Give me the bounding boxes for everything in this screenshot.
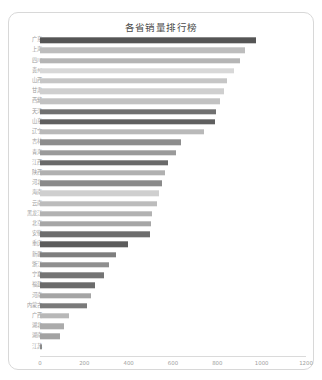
bar-chart-plot: 广东上海四川贵州山西甘肃西藏天津山东辽宁吉林青海江西陕西河北海南云南黑龙江北京安… (9, 13, 313, 369)
bar-row: 贵州 (9, 66, 313, 76)
bar-track (40, 140, 304, 145)
bar (40, 170, 165, 175)
bar (40, 344, 42, 349)
bar-row: 福建 (9, 280, 313, 290)
x-axis-tick-label: 1200 (299, 360, 313, 366)
bar-row: 重庆 (9, 239, 313, 249)
x-axis-tick-label: 0 (38, 360, 41, 366)
bar (40, 221, 151, 226)
bar-rows: 广东上海四川贵州山西甘肃西藏天津山东辽宁吉林青海江西陕西河北海南云南黑龙江北京安… (9, 35, 313, 352)
bar-track (40, 201, 304, 206)
bar-row: 新疆 (9, 250, 313, 260)
bar-row: 广东 (9, 35, 313, 45)
bar (40, 180, 162, 185)
bar (40, 283, 95, 288)
bar-track (40, 191, 304, 196)
bar-track (40, 119, 304, 124)
bar-row: 湖南 (9, 331, 313, 341)
bar-track (40, 150, 304, 155)
bar (40, 211, 152, 216)
bar (40, 68, 234, 73)
bar-track (40, 211, 304, 216)
bar-row: 天津 (9, 107, 313, 117)
bar (40, 78, 227, 83)
bar-track (40, 89, 304, 94)
bar-row: 海南 (9, 188, 313, 198)
bar-row: 青海 (9, 147, 313, 157)
bar-track (40, 232, 304, 237)
bar-row: 广西 (9, 311, 313, 321)
bar-row: 四川 (9, 55, 313, 65)
x-axis-tick-label: 800 (212, 360, 222, 366)
bar-track (40, 160, 304, 165)
bar (40, 140, 181, 145)
bar (40, 109, 216, 114)
bar-track (40, 48, 304, 53)
bar (40, 191, 159, 196)
x-axis-ticks: 020040060080010001200 (40, 358, 306, 372)
bar-track (40, 99, 304, 104)
bar-row: 陕西 (9, 168, 313, 178)
bar-row: 上海 (9, 45, 313, 55)
bar (40, 303, 87, 308)
bar (40, 99, 220, 104)
chart-card: 各省销量排行榜 广东上海四川贵州山西甘肃西藏天津山东辽宁吉林青海江西陕西河北海南… (8, 12, 314, 370)
bar-row: 北京 (9, 219, 313, 229)
bar (40, 119, 215, 124)
bar-track (40, 344, 304, 349)
bar (40, 334, 60, 339)
bar-row: 山西 (9, 76, 313, 86)
bar-row: 河南 (9, 290, 313, 300)
bar (40, 262, 109, 267)
bar-row: 云南 (9, 199, 313, 209)
bar (40, 242, 128, 247)
bar-track (40, 252, 304, 257)
x-axis-line (40, 356, 306, 357)
bar-track (40, 78, 304, 83)
bar-track (40, 334, 304, 339)
bar-track (40, 180, 304, 185)
bar-track (40, 262, 304, 267)
bar-track (40, 293, 304, 298)
bar-track (40, 242, 304, 247)
bar-row: 江西 (9, 158, 313, 168)
bar-track (40, 68, 304, 73)
bar-row: 安徽 (9, 229, 313, 239)
bar-track (40, 129, 304, 134)
bar (40, 232, 150, 237)
bar-track (40, 58, 304, 63)
bar-row: 内蒙古 (9, 301, 313, 311)
bar-row: 江苏 (9, 342, 313, 352)
bar (40, 252, 116, 257)
bar-track (40, 313, 304, 318)
bar-track (40, 272, 304, 277)
bar (40, 58, 240, 63)
bar-row: 吉林 (9, 137, 313, 147)
x-axis-tick-label: 200 (79, 360, 89, 366)
bar-row: 黑龙江 (9, 209, 313, 219)
bar-row: 浙江 (9, 260, 313, 270)
bar (40, 160, 168, 165)
bar-track (40, 170, 304, 175)
bar-row: 河北 (9, 178, 313, 188)
bar-row: 湖北 (9, 321, 313, 331)
bar-row: 山东 (9, 117, 313, 127)
bar-row: 宁夏 (9, 270, 313, 280)
bar (40, 37, 256, 42)
bar (40, 48, 245, 53)
bar-row: 辽宁 (9, 127, 313, 137)
bar-track (40, 221, 304, 226)
bar-track (40, 283, 304, 288)
x-axis-tick-label: 400 (124, 360, 134, 366)
bar-track (40, 109, 304, 114)
bar (40, 150, 176, 155)
bar (40, 129, 204, 134)
bar (40, 293, 91, 298)
bar (40, 272, 104, 277)
x-axis-tick-label: 1000 (255, 360, 269, 366)
bar (40, 201, 157, 206)
bar-row: 西藏 (9, 96, 313, 106)
bar-track (40, 37, 304, 42)
bar (40, 313, 69, 318)
bar-track (40, 303, 304, 308)
